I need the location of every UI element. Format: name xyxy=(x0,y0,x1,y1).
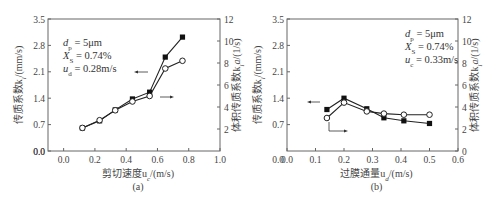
panel-label: (b) xyxy=(371,181,383,193)
circle-marker xyxy=(401,112,407,118)
panel-label: (a) xyxy=(132,181,143,193)
y-right-tick-label: 6 xyxy=(462,81,467,91)
y-left-tick-label: 2.8 xyxy=(33,41,45,51)
y-left-tick-label: 2.8 xyxy=(272,41,284,51)
chart-panel-b: 0.00.10.20.30.40.50.60.71.42.12.83.50.00… xyxy=(251,15,484,194)
circle-marker xyxy=(341,100,347,106)
y-left-tick-label: 1.4 xyxy=(33,94,45,104)
circle-marker xyxy=(80,125,86,131)
y-left-tick-label: 2.1 xyxy=(33,67,45,77)
y-right-tick-label: 0 xyxy=(462,147,467,157)
y-left-tick-label: 0.7 xyxy=(272,120,284,130)
x-tick-label: 0.4 xyxy=(120,155,132,165)
circle-marker xyxy=(97,117,103,123)
circle-marker xyxy=(364,109,370,115)
y-right-tick-label: 4 xyxy=(224,103,229,113)
circle-marker xyxy=(162,66,168,72)
y-axis-left-label: 传质系数kl/(mm/s) xyxy=(12,46,28,125)
y-right-tick-label: 8 xyxy=(224,59,229,69)
x-tick-label: 0.6 xyxy=(152,155,164,165)
circle-marker xyxy=(324,115,330,121)
square-marker xyxy=(324,107,329,112)
x-tick-label: 0.1 xyxy=(310,155,322,165)
y-axis-right-label: 体积传质系数kla/(1/s) xyxy=(230,38,246,131)
x-tick-label: 0.0 xyxy=(58,155,70,165)
circle-marker xyxy=(381,111,387,117)
y-left-tick-label: 3.5 xyxy=(33,15,45,25)
origin-label: 0.0 xyxy=(272,155,284,165)
condition-annotation: ud = 0.28m/s xyxy=(63,63,116,78)
y-left-tick-label: 1.4 xyxy=(272,94,284,104)
circle-marker xyxy=(427,112,433,118)
x-tick-label: 0.3 xyxy=(367,155,379,165)
y-right-tick-label: 2 xyxy=(462,125,467,135)
x-tick-label: 1.0 xyxy=(214,155,226,165)
chart-figure: 0.00.20.40.60.81.00.00.71.42.12.83.50.02… xyxy=(0,0,501,200)
y-left-tick-label: 0.0 xyxy=(33,147,45,157)
circle-marker xyxy=(147,93,153,99)
chart-panel-a: 0.00.20.40.60.81.00.00.71.42.12.83.50.02… xyxy=(12,15,246,194)
x-tick-label: 0.6 xyxy=(452,155,464,165)
y-right-tick-label: 6 xyxy=(224,81,229,91)
square-marker xyxy=(163,54,168,59)
x-tick-label: 0.2 xyxy=(338,155,350,165)
square-marker xyxy=(401,118,406,123)
y-right-tick-label: 8 xyxy=(462,59,467,69)
x-tick-label: 0.4 xyxy=(395,155,407,165)
circle-marker xyxy=(180,58,186,64)
y-right-tick-label: 4 xyxy=(462,103,467,113)
y-left-tick-label: 2.1 xyxy=(272,67,284,77)
y-axis-left-label: 传质系数kl/(mm/s) xyxy=(251,46,267,125)
condition-annotation: uc = 0.33m/s xyxy=(405,54,458,69)
circle-marker xyxy=(130,99,136,105)
square-marker xyxy=(180,35,185,40)
x-tick-label: 0.8 xyxy=(183,155,195,165)
square-marker xyxy=(427,121,432,126)
y-right-tick-label: 12 xyxy=(224,15,234,25)
y-right-tick-label: 12 xyxy=(462,15,472,25)
circle-marker xyxy=(112,108,118,114)
arrow-head-icon xyxy=(307,100,311,103)
arrow-head-icon xyxy=(344,129,348,132)
y-right-tick-label: 2 xyxy=(224,125,229,135)
arrow-head-icon xyxy=(170,95,174,98)
x-tick-label: 0.5 xyxy=(424,155,436,165)
x-tick-label: 0.2 xyxy=(89,155,101,165)
y-left-tick-label: 0.7 xyxy=(33,120,45,130)
y-axis-right-label: 体积传质系数kla/(1/s) xyxy=(468,38,484,131)
right-axis-arrow xyxy=(329,122,345,131)
y-left-tick-label: 3.5 xyxy=(272,15,284,25)
arrow-head-icon xyxy=(134,70,138,73)
